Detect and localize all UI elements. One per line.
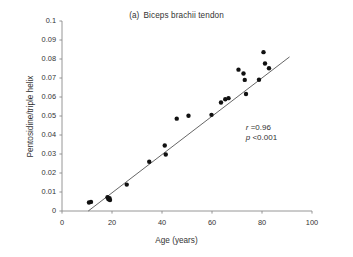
data-point — [163, 143, 167, 147]
y-axis-title: Pentosidine/triple helix — [26, 37, 35, 197]
data-point — [243, 78, 247, 82]
data-point — [175, 116, 179, 120]
annotation-value: =0.96 — [248, 123, 270, 132]
data-point — [261, 50, 265, 54]
x-tick-label: 60 — [192, 218, 232, 227]
x-tick-label: 80 — [242, 218, 282, 227]
x-tick-label: 100 — [292, 218, 332, 227]
data-point — [219, 100, 223, 104]
data-point — [108, 198, 112, 202]
data-point — [244, 92, 248, 96]
data-point — [209, 113, 213, 117]
data-point — [257, 78, 261, 82]
data-point — [125, 182, 129, 186]
data-point — [267, 66, 271, 70]
x-tick-label: 40 — [142, 218, 182, 227]
data-point — [226, 96, 230, 100]
data-point — [186, 114, 190, 118]
data-point — [263, 61, 267, 65]
data-point — [147, 160, 151, 164]
data-point — [236, 67, 240, 71]
data-point — [89, 200, 93, 204]
annotation-value: <0.001 — [250, 133, 277, 142]
figure-panel: (a)Biceps brachii tendon 00.010.020.030.… — [0, 0, 353, 257]
x-axis-title: Age (years) — [0, 236, 353, 245]
annotation-r-value: r =0.96 — [246, 123, 271, 132]
y-tick-label: 0.1 — [22, 16, 56, 25]
axes — [59, 21, 312, 214]
y-tick-label: 0 — [22, 206, 56, 215]
data-point — [241, 71, 245, 75]
annotation-p-value: p <0.001 — [246, 133, 277, 142]
x-tick-label: 20 — [92, 218, 132, 227]
data-points — [87, 50, 271, 205]
data-point — [164, 152, 168, 156]
x-tick-label: 0 — [42, 218, 82, 227]
